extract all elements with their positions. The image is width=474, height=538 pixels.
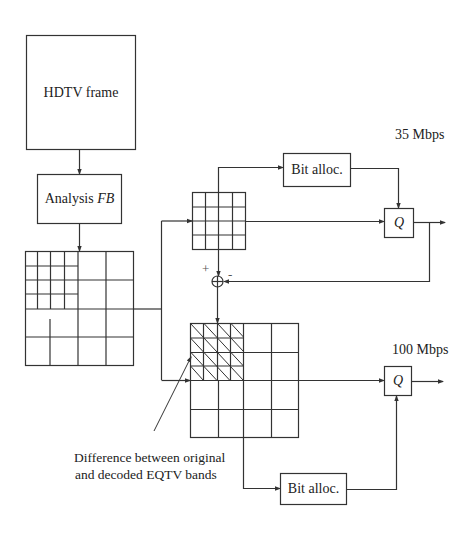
rate-bottom-label: 100 Mbps: [392, 343, 448, 357]
eqtv-subband-grid: [193, 193, 246, 250]
analysis-fb-math: FB: [97, 191, 114, 207]
annotation-pointer: [154, 357, 191, 431]
analysis-fb-label: Analysis FB: [37, 174, 122, 224]
q-top-label: Q: [384, 208, 414, 238]
subband-grid-full: [26, 252, 134, 366]
sum-plus-label: +: [202, 262, 209, 275]
sum-minus-label: -: [228, 268, 232, 281]
arrow-to-bit-alloc-bottom: [244, 438, 281, 489]
analysis-fb-text: Analysis: [45, 191, 98, 207]
bit-alloc-bottom-label: Bit alloc.: [280, 473, 347, 505]
arrow-bit-alloc-to-q-top: [351, 169, 399, 209]
q-bottom-label: Q: [384, 366, 412, 396]
arrow-bit-alloc-to-q-bottom: [347, 396, 397, 490]
arrow-to-bit-alloc-top: [219, 168, 284, 193]
rate-top-label: 35 Mbps: [395, 128, 444, 142]
bit-alloc-top-label: Bit alloc.: [283, 153, 351, 187]
annotation-line-1: Difference between original: [74, 451, 225, 465]
hdtv-subband-grid: [191, 324, 299, 438]
annotation-line-2: and decoded EQTV bands: [75, 468, 217, 482]
hdtv-frame-label: HDTV frame: [26, 35, 136, 150]
